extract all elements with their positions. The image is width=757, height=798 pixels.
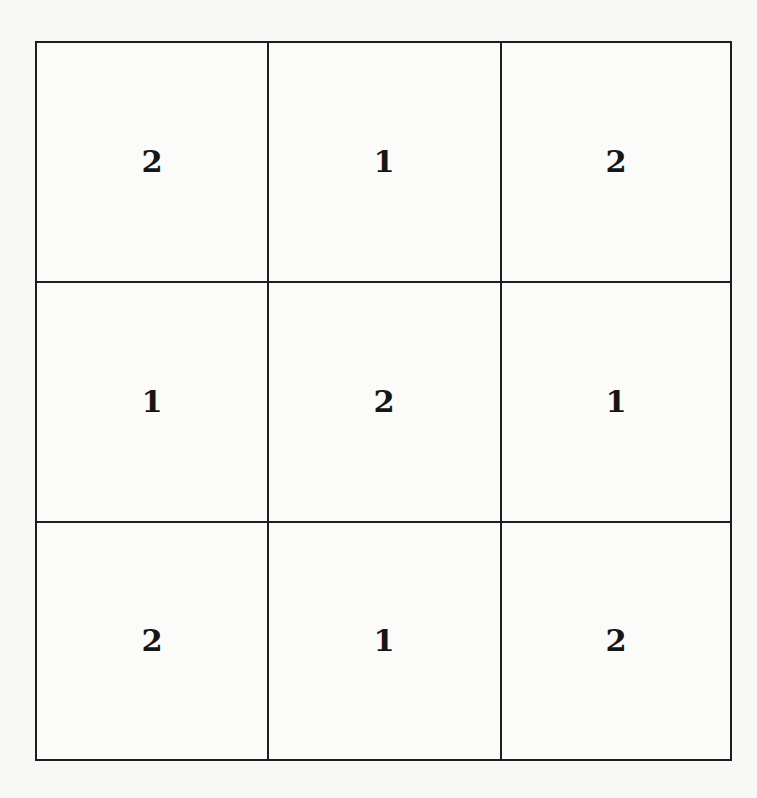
cell-value: 1: [605, 388, 626, 417]
grid-cell-r1c1[interactable]: 2: [37, 43, 269, 283]
cell-value: 2: [141, 627, 162, 656]
cell-value: 2: [605, 148, 626, 177]
grid-cell-r3c3[interactable]: 2: [502, 523, 730, 759]
cell-value: 2: [374, 388, 395, 417]
grid-cell-r3c1[interactable]: 2: [37, 523, 269, 759]
grid-cell-r2c3[interactable]: 1: [502, 283, 730, 523]
cell-value: 2: [605, 627, 626, 656]
cell-value: 1: [374, 148, 395, 177]
cell-value: 2: [141, 148, 162, 177]
cell-value: 1: [141, 388, 162, 417]
cell-value: 1: [374, 627, 395, 656]
grid-cell-r1c2[interactable]: 1: [269, 43, 502, 283]
grid-cell-r2c2[interactable]: 2: [269, 283, 502, 523]
grid-cell-r3c2[interactable]: 1: [269, 523, 502, 759]
grid-cell-r2c1[interactable]: 1: [37, 283, 269, 523]
grid-cell-r1c3[interactable]: 2: [502, 43, 730, 283]
puzzle-grid: 2 1 2 1 2 1 2 1 2: [35, 41, 732, 761]
